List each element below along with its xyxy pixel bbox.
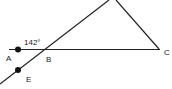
point-e-dot [15, 67, 21, 73]
point-e-label: E [26, 75, 31, 84]
geometry-diagram: 142° A B C E [0, 0, 172, 89]
angle-label: 142° [24, 38, 41, 47]
point-b-label: B [46, 55, 51, 64]
point-c-label: C [164, 48, 170, 57]
point-a-dot [15, 47, 21, 53]
point-a-label: A [6, 54, 12, 63]
segment-apex-c [116, 0, 159, 49]
